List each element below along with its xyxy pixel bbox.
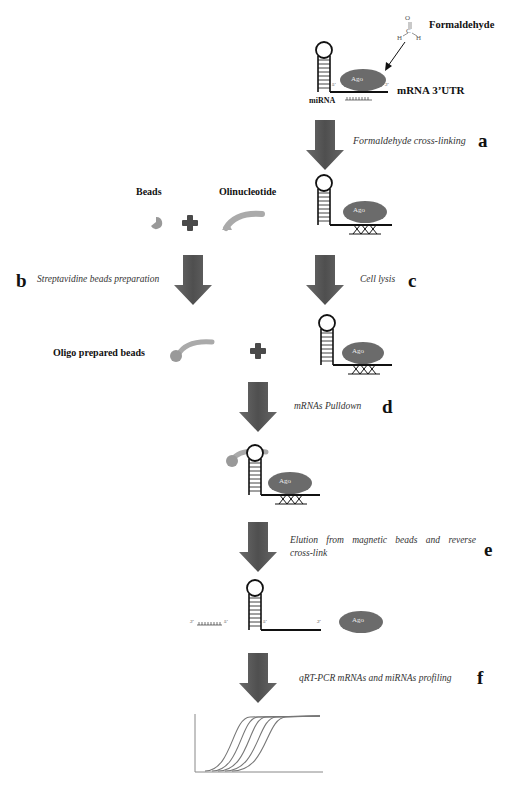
three-prime-top: 3' [385,82,389,87]
molecule-c: C [406,27,411,35]
ago-label-3: Ago [279,477,291,485]
oligo-prepared-beads-icon [170,342,212,362]
mirna-ago-complex-top [316,42,388,100]
step-b-text: Streptavidine beads preparation [37,274,159,284]
ago-label-1: Ago [353,206,365,214]
mirna-label: miRNA [309,96,335,105]
step-d-arrow [239,382,277,432]
eluted-mrna-5prime: 5' [263,619,267,624]
step-a-letter: a [478,130,488,152]
step-a-arrow [306,120,344,170]
step-d-letter: d [382,396,393,418]
formaldehyde-pointer-arrow [385,42,405,71]
eluted-mrna-3prime: 3' [317,619,321,624]
plus-icon-2 [250,343,266,359]
eluted-mirna-3prime: 3' [190,619,194,624]
ago-label-eluted: Ago [352,616,364,624]
crosslinked-complex-2 [319,315,392,374]
eluted-components [197,580,383,633]
plus-icon-1 [182,215,198,231]
step-b-arrow [174,255,212,305]
oligonucleotide-icon [222,214,262,230]
step-e-text-line2: cross-link [290,548,327,558]
crosslinked-complex-1 [316,175,392,234]
step-e-arrow [239,522,277,572]
step-c-arrow [306,255,344,305]
eluted-mirna-5prime: 5' [224,619,228,624]
step-b-letter: b [16,270,27,292]
molecule-h2: H [416,34,421,42]
step-a-text: Formaldehyde cross-linking [353,135,466,146]
step-e-letter: e [484,539,492,561]
oligonucleotide-label: Olinucleotide [219,186,276,197]
molecule-o: O [405,14,410,22]
beads-icon [151,217,162,229]
molecule-h1: H [397,34,402,42]
step-f-arrow [239,653,277,703]
ago-label-2: Ago [352,347,364,355]
ago-label-top: Ago [351,75,363,83]
pulldown-complex [226,445,320,504]
formaldehyde-label: Formaldehyde [429,19,494,30]
step-c-letter: c [408,270,416,292]
oligo-prepared-beads-label: Oligo prepared beads [53,347,145,358]
step-f-text: qRT-PCR mRNAs and miRNAs profiling [299,673,452,683]
mrna-label: mRNA 3’UTR [397,84,465,96]
diagram-graphics [0,0,507,786]
step-f-letter: f [477,667,483,689]
five-prime-top: 5' [332,82,336,87]
step-e-text: Elution from magnetic beads and reverse [290,535,476,545]
qpcr-amplification-plot [195,714,323,772]
step-d-text: mRNAs Pulldown [294,401,361,411]
beads-label: Beads [136,186,162,197]
step-c-text: Cell lysis [360,274,395,284]
